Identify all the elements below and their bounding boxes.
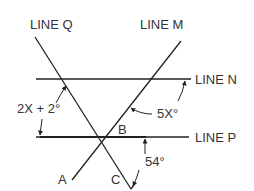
label-point-b: B: [118, 122, 127, 137]
geometry-diagram: LINE Q LINE M LINE N LINE P 2X + 2° 5X° …: [0, 0, 254, 191]
diagram-svg: LINE Q LINE M LINE N LINE P 2X + 2° 5X° …: [0, 0, 254, 191]
angle-arrow-m-n-upper: [178, 81, 185, 101]
angle-arrow-m-n-lower: [131, 108, 152, 114]
label-angle-p-c: 54°: [145, 154, 165, 169]
angle-arrow-p-left: [40, 119, 42, 135]
label-line-p: LINE P: [195, 130, 236, 145]
label-angle-m-n: 5X°: [157, 106, 178, 121]
label-point-a: A: [58, 172, 67, 187]
angle-arrow-c-54: [133, 170, 139, 186]
label-point-c: C: [111, 172, 120, 187]
label-line-m: LINE M: [140, 17, 183, 32]
label-angle-q-n: 2X + 2°: [17, 101, 60, 116]
label-line-n: LINE N: [195, 72, 237, 87]
label-line-q: LINE Q: [30, 17, 73, 32]
